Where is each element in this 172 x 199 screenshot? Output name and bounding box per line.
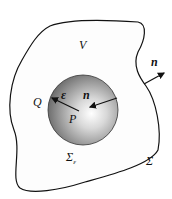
outer-surface-label: Σ: [146, 155, 153, 167]
radius-label: ε: [61, 89, 66, 101]
diagram-canvas: V n n ε P Q Σε Σ: [0, 0, 172, 199]
outer-normal-arrow: [144, 73, 164, 84]
inner-surface-subscript: ε: [73, 158, 76, 166]
excluded-sphere: [48, 75, 118, 145]
surface-point-label: Q: [33, 96, 42, 108]
inner-normal-label: n: [83, 89, 90, 101]
outer-normal-label: n: [151, 56, 158, 68]
inner-surface-label: Σε: [66, 151, 76, 166]
center-point-label: P: [69, 113, 76, 125]
volume-label: V: [79, 39, 86, 51]
